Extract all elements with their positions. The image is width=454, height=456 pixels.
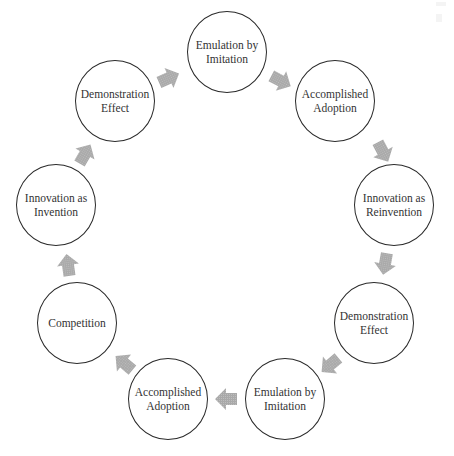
node-accomplished-adoption-top: Accomplished Adoption (295, 60, 375, 142)
node-competition: Competition (37, 282, 117, 364)
arrow-icon (153, 62, 185, 94)
node-innovation-as-invention: Innovation as Invention (16, 164, 96, 246)
node-emulation-by-imitation-bottom: Emulation by Imitation (245, 358, 325, 440)
node-label: Accomplished Adoption (133, 385, 203, 413)
node-label: Demonstration Effect (79, 87, 151, 115)
node-label: Innovation as Invention (23, 191, 89, 219)
node-label: Innovation as Reinvention (361, 191, 427, 219)
node-accomplished-adoption-bottom: Accomplished Adoption (128, 358, 208, 440)
node-innovation-as-reinvention: Innovation as Reinvention (354, 164, 434, 246)
scan-artifact (436, 2, 446, 6)
scan-artifact (436, 14, 442, 22)
node-label: Emulation by Imitation (194, 38, 260, 66)
node-demonstration-effect-left: Demonstration Effect (75, 60, 155, 142)
arrow-icon (69, 138, 102, 171)
node-demonstration-effect-right: Demonstration Effect (334, 282, 414, 364)
cycle-diagram: Emulation by Imitation Accomplished Adop… (0, 0, 454, 456)
node-label: Demonstration Effect (338, 309, 410, 337)
node-label: Accomplished Adoption (300, 87, 370, 115)
node-label: Competition (46, 316, 108, 330)
arrow-icon (265, 65, 297, 97)
node-label: Emulation by Imitation (252, 385, 318, 413)
arrow-icon (371, 250, 399, 278)
arrow-icon (214, 387, 238, 411)
arrow-icon (54, 251, 81, 278)
node-emulation-by-imitation-top: Emulation by Imitation (187, 11, 267, 93)
